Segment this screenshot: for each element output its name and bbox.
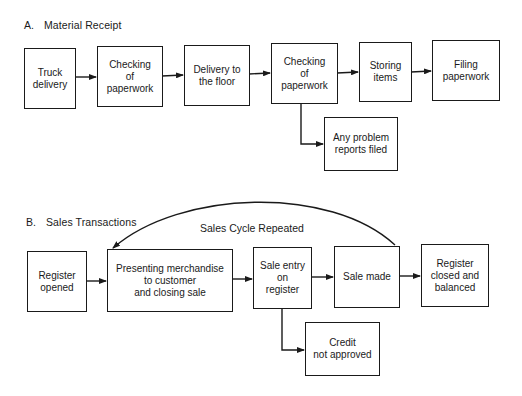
- step-register-opened: Register opened: [27, 251, 87, 312]
- arrow-sale-entry-to-credit: [282, 308, 304, 350]
- arrow-delivery-floor-to-checking: [249, 73, 270, 74]
- step-checking-paperwork-1: Checking of paperwork: [97, 46, 163, 107]
- step-truck-delivery: Truck delivery: [24, 48, 76, 109]
- step-presenting-merchandise: Presenting merchandise to customer and c…: [107, 249, 233, 312]
- branch-credit-not-approved: Credit not approved: [305, 322, 380, 376]
- branch-problem-reports: Any problem reports filed: [324, 117, 398, 171]
- step-sale-made: Sale made: [334, 246, 400, 308]
- arrow-checking-to-problem-reports: [301, 103, 323, 144]
- step-sale-entry: Sale entry on register: [253, 247, 312, 309]
- section-b-title-text: Sales Transactions: [46, 216, 137, 228]
- arrow-storing-to-filing: [411, 71, 431, 72]
- arrow-checking-to-storing: [337, 72, 358, 73]
- section-b-letter: B.: [26, 216, 46, 228]
- step-delivery-to-floor: Delivery to the floor: [184, 45, 250, 106]
- section-a-title-text: Material Receipt: [44, 19, 121, 31]
- section-a-title: A.Material Receipt: [24, 19, 121, 31]
- section-b-title: B.Sales Transactions: [26, 216, 137, 228]
- step-filing-paperwork: Filing paperwork: [432, 40, 500, 101]
- section-a-letter: A.: [24, 19, 44, 31]
- loop-label-sales-cycle: Sales Cycle Repeated: [200, 222, 304, 234]
- step-checking-paperwork-2: Checking of paperwork: [271, 43, 338, 104]
- step-storing-items: Storing items: [359, 42, 412, 102]
- arrow-checking-to-delivery-floor: [162, 75, 183, 76]
- step-register-closed: Register closed and balanced: [421, 244, 489, 307]
